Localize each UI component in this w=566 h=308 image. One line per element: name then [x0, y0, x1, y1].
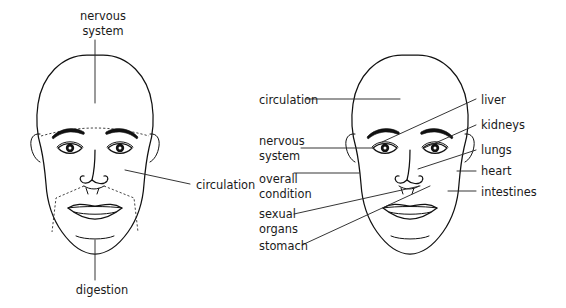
face-reading-diagram: nervous system circulation digestion	[0, 0, 566, 308]
right-label-liver: liver	[481, 93, 506, 107]
right-face-mouth	[383, 204, 437, 219]
right-label-overall-condition-line1: overall	[259, 172, 298, 186]
left-face-mouth-zone-left	[52, 186, 84, 232]
right-face-left-eyebrow	[367, 129, 399, 139]
right-face-nose-bridge	[407, 150, 410, 180]
left-face-mouth	[68, 204, 122, 219]
left-face-right-eyebrow	[106, 129, 138, 139]
right-label-nervous-system-line1: nervous	[259, 134, 305, 148]
left-label-nervous-system-line2: system	[82, 24, 123, 38]
right-label-kidneys: kidneys	[481, 118, 525, 132]
right-label-lungs: lungs	[481, 143, 512, 157]
left-face-nose-bridge	[92, 150, 95, 180]
left-face-left-eyebrow	[52, 129, 84, 139]
leader-right-lungs	[418, 150, 476, 169]
right-label-heart: heart	[481, 164, 512, 178]
right-label-nervous-system-line2: system	[259, 149, 300, 163]
right-face-chin-crease	[391, 236, 429, 239]
leader-left-circulation	[125, 170, 190, 184]
right-face-left-eye	[372, 142, 398, 154]
right-label-circulation: circulation	[259, 93, 318, 107]
right-label-overall-condition-line2: condition	[259, 187, 312, 201]
right-face-left-labels: circulation nervous system overall condi…	[259, 93, 318, 253]
leader-right-stomach	[302, 186, 430, 245]
right-face-group	[294, 55, 476, 254]
diagram-canvas: nervous system circulation digestion	[0, 0, 566, 308]
left-label-digestion: digestion	[76, 283, 128, 297]
right-label-intestines: intestines	[481, 185, 537, 199]
right-face-nose	[395, 176, 423, 184]
left-face-group	[31, 40, 190, 280]
right-label-stomach: stomach	[259, 239, 308, 253]
right-label-sexual-organs-line1: sexual	[259, 207, 296, 221]
left-label-nervous-system-line1: nervous	[80, 9, 126, 23]
left-face-left-eye	[57, 142, 83, 154]
left-face-nose-base	[84, 186, 104, 189]
leader-right-sexual-organs	[294, 186, 420, 214]
leader-right-liver	[382, 99, 476, 142]
right-face-right-labels: liver kidneys lungs heart intestines	[481, 93, 537, 199]
left-label-circulation: circulation	[196, 178, 255, 192]
left-face-chin-crease	[76, 236, 114, 239]
left-face-right-eye	[107, 142, 133, 154]
left-face-nose	[80, 176, 108, 184]
right-label-sexual-organs-line2: organs	[259, 222, 298, 236]
